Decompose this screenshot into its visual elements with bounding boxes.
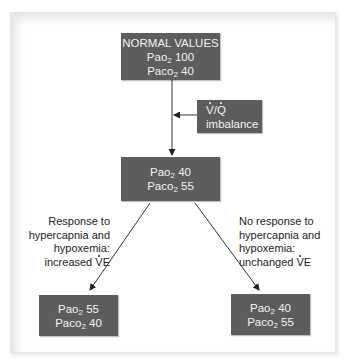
label-line: hypoxemia: xyxy=(20,242,110,256)
label-line: No response to xyxy=(239,215,339,229)
imbalance-label: imbalance xyxy=(206,117,258,131)
vq-imbalance-box: V/Q imbalance xyxy=(197,100,262,133)
label-line: hypoxemia: xyxy=(239,242,339,256)
paco2-row: Paco2 40 xyxy=(147,64,194,78)
increased-ve-result-box: Pao2 55 Paco2 40 xyxy=(39,295,118,336)
response-label: Response to hypercapnia and hypoxemia: i… xyxy=(20,215,110,269)
paco2-row: Paco2 55 xyxy=(147,179,194,193)
paco2-row: Paco2 55 xyxy=(247,315,294,329)
pao2-row: Pao2 100 xyxy=(147,50,194,64)
unchanged-ve-result-box: Pao2 40 Paco2 55 xyxy=(231,294,310,335)
label-line: increased VE xyxy=(20,256,110,270)
pao2-row: Pao2 40 xyxy=(250,301,291,315)
pao2-row: Pao2 55 xyxy=(58,302,99,316)
label-line: Response to xyxy=(20,215,110,229)
normal-values-box: NORMAL VALUES Pao2 100 Paco2 40 xyxy=(121,33,220,80)
no-response-label: No response to hypercapnia and hypoxemia… xyxy=(239,215,339,269)
label-line: hypercapnia and xyxy=(20,229,110,243)
normal-values-title: NORMAL VALUES xyxy=(122,36,219,50)
label-line: unchanged VE xyxy=(239,256,339,270)
paco2-row: Paco2 40 xyxy=(55,316,102,330)
middle-values-box: Pao2 40 Paco2 55 xyxy=(121,157,220,201)
pao2-row: Pao2 40 xyxy=(150,165,191,179)
label-line: hypercapnia and xyxy=(239,229,339,243)
vq-label: V/Q xyxy=(206,103,226,117)
